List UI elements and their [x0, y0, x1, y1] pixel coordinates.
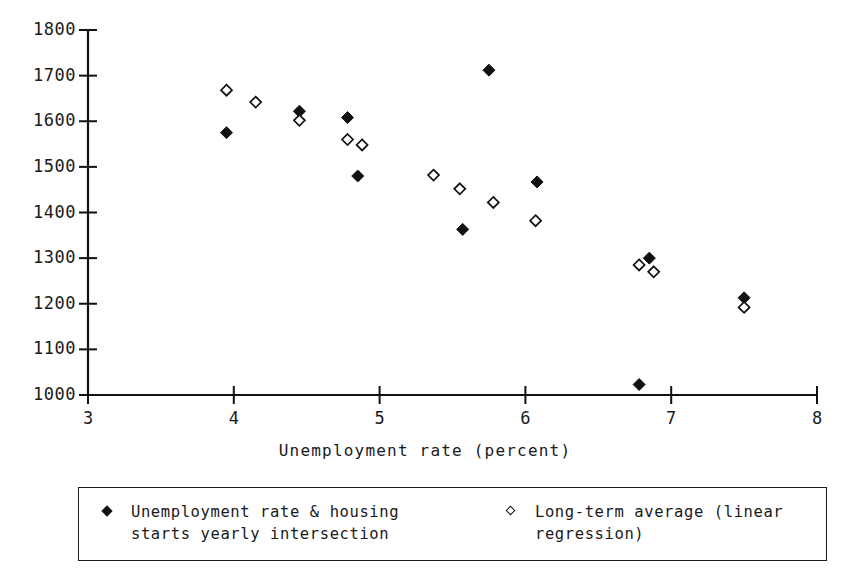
- y-axis-tick-label: 1700: [14, 67, 76, 84]
- data-markers-layer: [221, 64, 751, 390]
- legend-entry: Unemployment rate & housing starts yearl…: [101, 501, 505, 545]
- data-point-open: [488, 197, 499, 208]
- data-point-open: [294, 115, 305, 126]
- legend-entry-label: Long-term average (linear regression): [535, 501, 783, 545]
- open-diamond-icon: [505, 501, 527, 521]
- legend-entry-list: Unemployment rate & housing starts yearl…: [79, 488, 826, 560]
- data-point-filled: [342, 112, 354, 124]
- x-axis-tick-label: 8: [802, 410, 832, 427]
- axes-layer: [79, 30, 817, 404]
- x-axis-tick-label: 5: [365, 410, 395, 427]
- y-axis-tick-label: 1800: [14, 21, 76, 38]
- y-axis-tick-label: 1500: [14, 158, 76, 175]
- x-axis-title: Unemployment rate (percent): [0, 441, 850, 460]
- data-point-open: [357, 139, 368, 150]
- scatter-plot-figure: 180017001600150014001300120011001000 345…: [0, 0, 850, 582]
- data-point-open: [250, 97, 261, 108]
- data-point-filled: [352, 170, 364, 182]
- data-point-filled: [531, 176, 543, 188]
- data-point-open: [634, 259, 645, 270]
- data-point-open: [221, 85, 232, 96]
- legend-entry: Long-term average (linear regression): [505, 501, 783, 545]
- legend: Unemployment rate & housing starts yearl…: [78, 487, 827, 561]
- data-point-open: [454, 183, 465, 194]
- data-point-open: [530, 215, 541, 226]
- data-point-open: [342, 134, 353, 145]
- filled-diamond-icon-glyph: [101, 505, 112, 516]
- data-point-open: [739, 302, 750, 313]
- data-point-open: [648, 266, 659, 277]
- y-axis-tick-label: 1600: [14, 112, 76, 129]
- y-axis-tick-label: 1300: [14, 249, 76, 266]
- legend-entry-label: Unemployment rate & housing starts yearl…: [131, 501, 399, 545]
- filled-diamond-icon: [101, 501, 123, 521]
- data-point-filled: [483, 64, 495, 76]
- y-axis-tick-label: 1400: [14, 204, 76, 221]
- x-axis-tick-label: 7: [656, 410, 686, 427]
- x-axis-tick-label: 3: [73, 410, 103, 427]
- x-axis-tick-label: 4: [219, 410, 249, 427]
- data-point-filled: [221, 127, 233, 139]
- data-point-filled: [457, 223, 469, 235]
- data-point-filled: [633, 379, 645, 391]
- y-axis-tick-label: 1000: [14, 386, 76, 403]
- x-axis-tick-label: 6: [510, 410, 540, 427]
- y-axis-tick-label: 1200: [14, 295, 76, 312]
- y-axis-tick-label: 1100: [14, 340, 76, 357]
- data-point-filled: [643, 252, 655, 264]
- data-point-open: [428, 170, 439, 181]
- open-diamond-icon-glyph: [506, 506, 516, 516]
